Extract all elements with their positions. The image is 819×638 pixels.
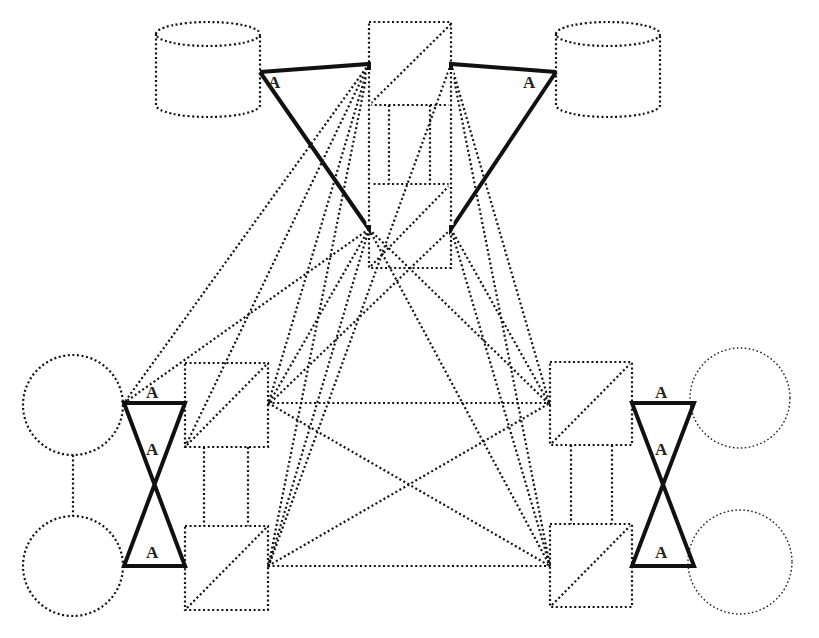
label-a-right-mid: A [655, 440, 668, 459]
node-circle-left-upper [23, 355, 123, 455]
server-box-right-upper [550, 362, 632, 445]
node-circle-right-lower [688, 510, 792, 614]
label-a-top-left: A [268, 73, 281, 92]
server-box-right-lower [550, 524, 632, 607]
node-circle-right-upper [690, 348, 790, 448]
label-a-left-mid: A [146, 440, 159, 459]
a-links [124, 64, 694, 566]
node-circle-left-lower [23, 516, 123, 616]
server-box-top-upper [369, 22, 451, 105]
label-a-right-bottom: A [655, 543, 668, 562]
database-cylinder-left [156, 22, 260, 117]
label-a-left-top: A [146, 383, 159, 402]
label-a-right-top: A [655, 383, 668, 402]
mesh-links [124, 64, 550, 568]
server-box-left-lower [185, 526, 268, 610]
network-diagram: A A A A A A A A [0, 0, 819, 638]
diagram-canvas: A A A A A A A A [0, 0, 819, 638]
database-cylinder-right [556, 22, 660, 117]
label-a-top-right: A [523, 73, 536, 92]
label-a-left-bottom: A [146, 543, 159, 562]
server-box-left-upper [185, 363, 268, 447]
